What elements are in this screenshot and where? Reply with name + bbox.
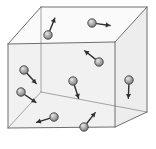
particle-sphere-icon	[17, 88, 25, 96]
cube-faces	[8, 7, 147, 128]
particle-sphere-icon	[20, 66, 28, 74]
particle-sphere-icon	[88, 19, 96, 27]
cube-face-front	[8, 42, 115, 128]
particle-sphere-icon	[80, 123, 88, 131]
particle-sphere-icon	[95, 58, 103, 66]
particle-sphere-icon	[69, 77, 77, 85]
particle-sphere-icon	[50, 113, 58, 121]
gas-particles-figure	[0, 0, 156, 149]
gas-particles-diagram	[0, 0, 156, 149]
particle-sphere-icon	[125, 76, 133, 84]
particle-sphere-icon	[44, 31, 52, 39]
